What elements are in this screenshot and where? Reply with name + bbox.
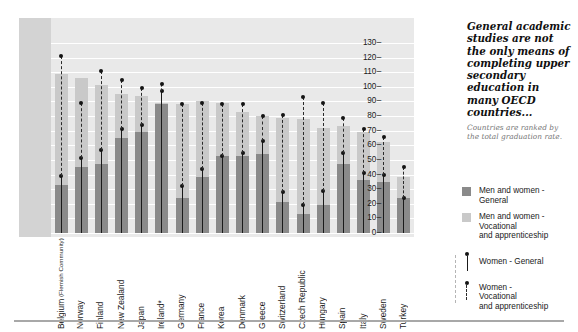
women-vocational-stem [323, 103, 324, 191]
legend-item-men-women-general: Men and women -General [462, 186, 578, 205]
x-axis-label: Turkey [399, 239, 408, 329]
x-axis-label: Ireland* [157, 239, 166, 329]
women-general-stem [61, 176, 62, 233]
bar-group[interactable] [75, 18, 88, 237]
bar-group[interactable] [256, 18, 269, 237]
x-axis-label: Finland [96, 239, 105, 329]
women-vocational-dot [341, 116, 345, 120]
women-general-stem [161, 91, 162, 233]
women-vocational-stem [61, 56, 62, 176]
women-general-stem [141, 125, 142, 233]
women-vocational-dot [241, 102, 245, 106]
women-general-stem [323, 191, 324, 233]
plot-area [51, 18, 414, 237]
women-vocational-dot [382, 135, 386, 139]
x-axis-label: Sweden [379, 239, 388, 329]
x-axis-label: New Zealand [117, 239, 126, 329]
legend-label: Men and women -General [479, 186, 578, 205]
women-vocational-stem [363, 129, 364, 173]
bar-group[interactable] [176, 18, 189, 237]
x-axis-labels: Belgium (Flemish Community)NorwayFinland… [51, 239, 414, 331]
women-general-stem [202, 169, 203, 233]
y-axis-tick: 10– [367, 214, 381, 222]
bar-group[interactable] [397, 18, 410, 237]
women-general-stem [282, 192, 283, 233]
women-vocational-stem [141, 88, 142, 125]
chart-page: 0–10–20–30–40–50–60–70–80–90–100–110–120… [0, 0, 578, 332]
x-axis-label: Switzerland [278, 239, 287, 329]
chart-container: 0–10–20–30–40–50–60–70–80–90–100–110–120… [19, 18, 414, 237]
x-axis-label: Norway [76, 239, 85, 329]
women-general-stem [363, 173, 364, 233]
women-vocational-stem [303, 97, 304, 205]
women-vocational-dot [160, 82, 164, 86]
bottom-rule [14, 320, 564, 322]
women-vocational-dot [362, 127, 366, 131]
women-vocational-stem [343, 118, 344, 153]
women-vocational-stem [182, 104, 183, 186]
bar-group[interactable] [155, 18, 168, 237]
bar-group[interactable] [216, 18, 229, 237]
y-axis-tick: 70– [367, 127, 381, 135]
legend-swatch-dark-icon [462, 187, 471, 196]
women-vocational-stem [242, 104, 243, 152]
women-vocational-stem [121, 80, 122, 130]
bar-group[interactable] [337, 18, 350, 237]
x-axis-label: Italy [359, 239, 368, 329]
y-axis-tick: 90– [367, 97, 381, 105]
x-axis-label: Belgium (Flemish Community) [56, 239, 66, 329]
bar-group[interactable] [95, 18, 108, 237]
x-axis-label: Korea [217, 239, 226, 329]
x-axis-label: France [197, 239, 206, 329]
legend-divider [455, 255, 456, 303]
women-vocational-stem [101, 71, 102, 150]
y-axis-band [19, 18, 51, 237]
legend-item-women-general: Women - General [462, 252, 578, 267]
women-vocational-stem [262, 116, 263, 141]
women-general-stem [101, 150, 102, 233]
bar-group[interactable] [297, 18, 310, 237]
bar-group[interactable] [276, 18, 289, 237]
women-general-stem [383, 175, 384, 233]
women-vocational-dot [301, 95, 305, 99]
women-vocational-dot [402, 165, 406, 169]
x-axis-label: Czech Republic [298, 239, 307, 329]
y-axis-tick: 80– [367, 112, 381, 120]
women-general-stem [262, 141, 263, 233]
y-axis-tick: 50– [367, 156, 381, 164]
ranking-note: Countries are ranked by the total gradua… [467, 123, 571, 142]
women-general-stem [182, 186, 183, 233]
women-vocational-dot [281, 113, 285, 117]
bar-group[interactable] [135, 18, 148, 237]
bar-group[interactable] [236, 18, 249, 237]
women-vocational-dot [261, 114, 265, 118]
bar-group[interactable] [115, 18, 128, 237]
women-vocational-stem [282, 115, 283, 192]
x-axis-label: Denmark [238, 239, 247, 329]
bar-group[interactable] [196, 18, 209, 237]
women-general-stem [121, 129, 122, 233]
y-axis-tick: 0– [372, 229, 381, 237]
legend-swatch-light-icon [462, 213, 471, 222]
bar-group[interactable] [317, 18, 330, 237]
women-general-stem [81, 158, 82, 233]
women-general-stem [242, 153, 243, 233]
x-axis-label: Japan [137, 239, 146, 329]
y-axis-tick: 100– [363, 83, 381, 91]
women-vocational-stem [222, 104, 223, 155]
y-axis-tick: 120– [363, 54, 381, 62]
dot-dashed-line-icon [462, 281, 471, 301]
bar-group[interactable] [55, 18, 68, 237]
headline-text: General academic studies are not the onl… [467, 20, 571, 118]
women-vocational-stem [202, 103, 203, 169]
women-vocational-dot [59, 54, 63, 58]
y-axis-tick: 60– [367, 141, 381, 149]
y-axis-tick: 30– [367, 185, 381, 193]
women-vocational-stem [403, 167, 404, 198]
women-general-stem [222, 156, 223, 233]
y-axis-tick: 20– [367, 200, 381, 208]
y-axis-tick: 130– [363, 39, 381, 47]
women-general-stem [403, 198, 404, 233]
women-vocational-stem [81, 103, 82, 159]
legend-label: Men and women -Vocationaland apprentices… [479, 212, 578, 241]
